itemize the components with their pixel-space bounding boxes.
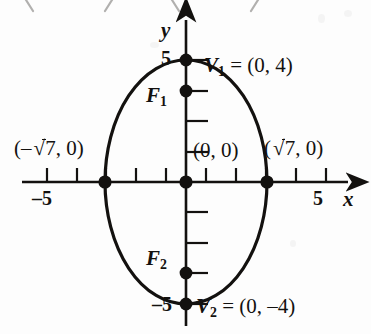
vertex-bottom-subscript: 2 <box>210 305 217 320</box>
point-center <box>179 175 192 188</box>
x-axis-label: x <box>343 189 354 210</box>
x-tick-label-5: 5 <box>313 188 323 208</box>
point-focus-top <box>180 85 193 98</box>
covertex-left-open: (– <box>14 136 32 160</box>
figure-canvas: y x 5 –5 –5 5 V1 = (0, 4) F1 F2 V2 = (0,… <box>0 0 371 334</box>
radical-right: √ <box>271 138 285 159</box>
focus-bottom-name: F <box>146 246 160 270</box>
y-axis-label: y <box>161 20 170 41</box>
x-tick-label-minus5: –5 <box>32 188 52 208</box>
covertex-right-label: (√7, 0) <box>264 138 323 159</box>
vertex-top-coords: (0, 4) <box>247 53 293 77</box>
point-vertex-top <box>180 54 193 67</box>
focus-top-name: F <box>146 83 160 107</box>
vertex-top-label: V1 = (0, 4) <box>204 55 293 79</box>
graph-svg <box>0 0 371 334</box>
vertex-bottom-equals: = <box>222 294 234 318</box>
covertex-right-close: 7, 0) <box>285 136 324 160</box>
focus-bottom-subscript: 2 <box>160 257 167 272</box>
covertex-left-label: (–√7, 0) <box>14 138 84 159</box>
focus-bottom-label: F2 <box>146 248 167 272</box>
y-tick-label-minus5: –5 <box>152 294 172 314</box>
origin-label: (0, 0) <box>193 140 239 161</box>
vertex-top-equals: = <box>230 53 242 77</box>
covertex-left-close: 7, 0) <box>45 136 84 160</box>
vertex-bottom-label: V2 = (0, –4) <box>196 296 295 320</box>
covertex-right-open: ( <box>264 136 271 160</box>
radical-left: √ <box>32 138 46 159</box>
point-covertex-right <box>260 175 273 188</box>
point-covertex-left <box>98 175 111 188</box>
vertex-bottom-name: V <box>196 294 210 318</box>
vertex-top-subscript: 1 <box>218 64 225 79</box>
focus-top-label: F1 <box>146 85 167 109</box>
radical-bar-left <box>42 139 46 141</box>
vertex-top-name: V <box>204 53 218 77</box>
point-vertex-bottom <box>180 298 193 311</box>
vertex-bottom-coords: (0, –4) <box>239 294 295 318</box>
y-tick-label-5: 5 <box>161 48 171 68</box>
radical-bar-right <box>282 139 286 141</box>
point-focus-bottom <box>180 267 193 280</box>
cropped-text-above <box>26 0 258 11</box>
focus-top-subscript: 1 <box>160 94 167 109</box>
